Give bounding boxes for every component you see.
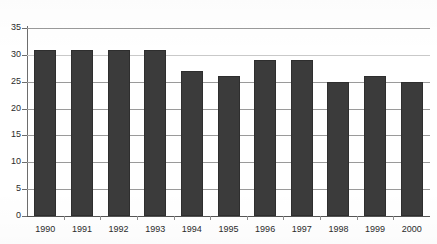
x-axis-tick-label: 2000 [393, 224, 430, 234]
x-axis-tick-label: 1995 [210, 224, 247, 234]
bar [34, 50, 56, 217]
x-axis-tick-mark [320, 216, 321, 220]
y-axis-tick-label: 10 [1, 157, 21, 166]
x-axis-tick-mark [357, 216, 358, 220]
y-axis-tick-label: 0 [1, 211, 21, 220]
x-axis-tick-label: 1999 [357, 224, 394, 234]
y-axis-tick-label: 20 [1, 104, 21, 113]
x-axis-tick-label: 1994 [174, 224, 211, 234]
y-axis-tick-label: 30 [1, 50, 21, 59]
x-axis-tick-mark [283, 216, 284, 220]
x-axis-tick-mark [64, 216, 65, 220]
bar [218, 76, 240, 216]
x-axis-tick-mark [100, 216, 101, 220]
x-axis-baseline [27, 216, 430, 217]
x-axis-tick-mark [247, 216, 248, 220]
bar [71, 50, 93, 217]
y-axis-tick-label: 25 [1, 77, 21, 86]
gridline [27, 28, 430, 29]
plot-area [27, 28, 430, 216]
x-axis-tick-label: 1996 [247, 224, 284, 234]
bar-chart: 05101520253035 1990199119921993199419951… [0, 0, 437, 244]
bar [364, 76, 386, 216]
x-axis-tick-label: 1998 [320, 224, 357, 234]
y-axis-tick-label: 15 [1, 130, 21, 139]
bar [181, 71, 203, 216]
x-axis-tick-mark [393, 216, 394, 220]
y-axis-tick-mark [22, 55, 27, 56]
x-axis-tick-label: 1990 [27, 224, 64, 234]
bar [327, 82, 349, 216]
y-axis-tick-label: 5 [1, 184, 21, 193]
y-axis-tick-mark [22, 82, 27, 83]
y-axis-tick-mark [22, 216, 27, 217]
y-axis-tick-mark [22, 135, 27, 136]
bar [108, 50, 130, 217]
y-axis-tick-label: 35 [1, 23, 21, 32]
bar [291, 60, 313, 216]
y-axis-tick-mark [22, 28, 27, 29]
bar [401, 82, 423, 216]
x-axis-tick-mark [137, 216, 138, 220]
x-axis-tick-label: 1992 [100, 224, 137, 234]
bar [144, 50, 166, 217]
x-axis-tick-mark [174, 216, 175, 220]
x-axis-tick-label: 1997 [283, 224, 320, 234]
y-axis-tick-mark [22, 189, 27, 190]
y-axis-tick-mark [22, 109, 27, 110]
x-axis-tick-label: 1993 [137, 224, 174, 234]
bar [254, 60, 276, 216]
x-axis-tick-label: 1991 [64, 224, 101, 234]
x-axis-tick-mark [210, 216, 211, 220]
y-axis-tick-mark [22, 162, 27, 163]
y-axis-tick-labels: 05101520253035 [0, 0, 21, 244]
